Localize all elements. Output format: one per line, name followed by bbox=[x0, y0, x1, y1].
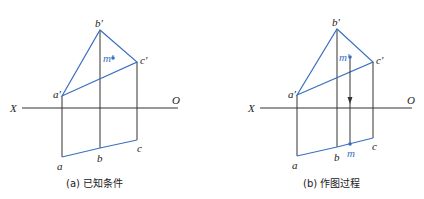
label-a-prime: a′ bbox=[53, 88, 62, 100]
label-c-prime: c′ bbox=[376, 54, 384, 66]
label-b: b bbox=[334, 151, 340, 163]
label-m: m bbox=[347, 147, 355, 159]
projection-diagrams: X O b′ c′ a′ m′ a b c (a) 已知条件 X O b′ c′… bbox=[0, 0, 424, 199]
axis-label-o: O bbox=[172, 94, 180, 106]
panel-b: X O b′ c′ a′ m′ a b m c (b) 作图过程 bbox=[247, 16, 415, 189]
caption-a: (a) 已知条件 bbox=[66, 177, 123, 189]
label-m-prime: m′ bbox=[103, 52, 114, 64]
point-m bbox=[348, 142, 352, 146]
label-b-prime: b′ bbox=[95, 17, 104, 29]
caption-b: (b) 作图过程 bbox=[303, 177, 360, 189]
label-a: a bbox=[57, 160, 63, 172]
label-b-prime: b′ bbox=[332, 16, 341, 28]
label-a: a bbox=[292, 159, 298, 171]
axis-label-o: O bbox=[407, 94, 415, 106]
label-b: b bbox=[97, 152, 103, 164]
label-c: c bbox=[137, 142, 142, 154]
label-a-prime: a′ bbox=[288, 88, 297, 100]
axis-label-x: X bbox=[9, 102, 18, 114]
label-m-prime: m′ bbox=[339, 51, 350, 63]
arrow-down-icon bbox=[348, 97, 353, 104]
triangle-front-view bbox=[297, 29, 373, 95]
label-c-prime: c′ bbox=[140, 54, 148, 66]
panel-a: X O b′ c′ a′ m′ a b c (a) 已知条件 bbox=[9, 17, 180, 189]
label-c: c bbox=[372, 140, 377, 152]
axis-label-x: X bbox=[247, 102, 256, 114]
